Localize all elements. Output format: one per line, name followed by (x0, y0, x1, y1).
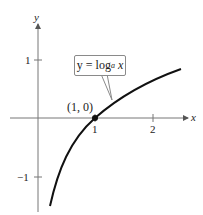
x-axis-label: x (191, 112, 196, 123)
tick-label-y1: 1 (25, 55, 31, 66)
callout-var: x (118, 58, 123, 73)
y-axis-label: y (34, 12, 39, 23)
callout-text: y = log (77, 58, 111, 73)
chart-canvas (0, 0, 203, 215)
log-curve (50, 69, 181, 206)
point-1-0 (92, 115, 98, 121)
tick-label-x2: 2 (150, 124, 156, 135)
tick-label-x1: 1 (92, 124, 98, 135)
point-label: (1, 0) (67, 101, 93, 113)
callout-subscript: a (111, 61, 115, 70)
function-label-callout: y = loga x (74, 55, 126, 76)
tick-label-ym1: −1 (17, 172, 29, 183)
callout-pointer (101, 74, 112, 100)
